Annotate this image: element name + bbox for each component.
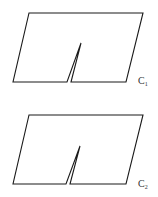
figure-label-c2: C2	[138, 178, 148, 190]
figure-label-c1: C1	[138, 75, 148, 87]
figure-c1: C1	[13, 13, 148, 87]
slit-parallelogram-c1	[13, 13, 143, 82]
slit-parallelogram-c2	[13, 115, 143, 184]
figure-c2: C2	[13, 115, 148, 190]
diagram-canvas: C1 C2	[0, 0, 158, 197]
